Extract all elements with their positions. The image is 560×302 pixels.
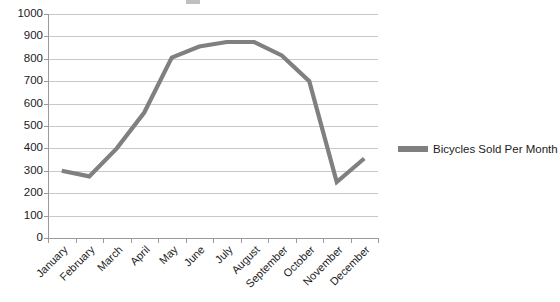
series-line-bicycles-sold-per-month — [62, 42, 365, 182]
legend-label-bicycles-sold-per-month: Bicycles Sold Per Month — [433, 143, 558, 155]
line-chart: 10009008007006005004003002001000 January… — [0, 0, 560, 302]
chart-legend: Bicycles Sold Per Month — [398, 143, 558, 155]
legend-swatch-bicycles-sold-per-month — [398, 146, 428, 152]
